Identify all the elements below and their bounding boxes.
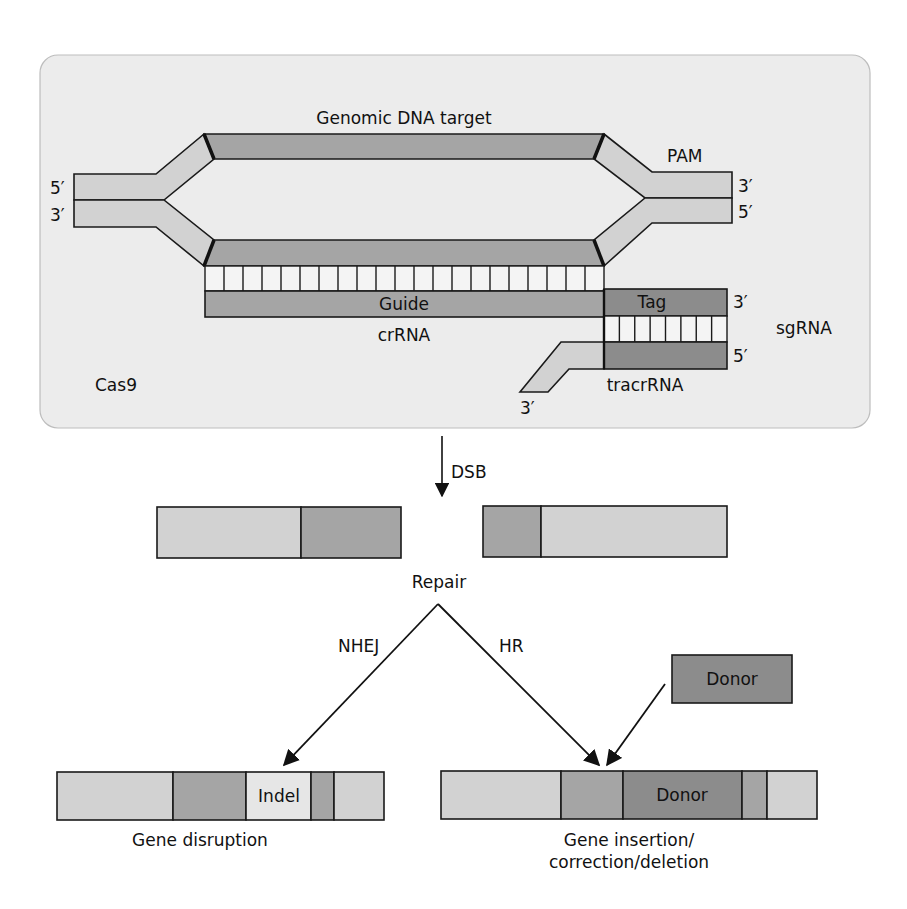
donor-template-label: Donor — [706, 669, 758, 689]
genomic-dna-target-label: Genomic DNA target — [316, 108, 492, 128]
nhej-label: NHEJ — [338, 636, 379, 656]
left-dna-fragment — [157, 507, 401, 558]
nhej-arrow — [284, 604, 438, 765]
right-top-3prime-end: 3′ — [738, 176, 753, 196]
tracrrna-label: tracrRNA — [607, 375, 684, 395]
gene-insertion-bar — [441, 771, 817, 819]
dsb-label: DSB — [451, 462, 487, 482]
left-top-5prime-end: 5′ — [50, 178, 65, 198]
tracr-5prime-end: 5′ — [733, 346, 748, 366]
genomic-target-top-strand — [204, 134, 604, 159]
tag-3prime-end: 3′ — [733, 292, 748, 312]
gene-disruption-caption: Gene disruption — [132, 830, 268, 850]
tracr-tail-3prime-end: 3′ — [520, 398, 535, 418]
tag-tracr-base-pairs — [604, 316, 727, 342]
hr-arrow — [438, 604, 599, 765]
tracrrna-bar — [604, 342, 727, 369]
crispr-cas9-diagram: Guide crRNA Tag 3′ 5′ tracrRNA 3′ sgRNA … — [0, 0, 907, 909]
guide-target-base-pairs — [205, 266, 604, 291]
right-dna-fragment — [483, 506, 727, 557]
crrna-label: crRNA — [378, 325, 431, 345]
repair-label: Repair — [412, 572, 466, 592]
tag-label: Tag — [637, 292, 667, 312]
indel-label: Indel — [258, 786, 300, 806]
guide-label: Guide — [379, 294, 429, 314]
donor-arrow — [607, 684, 665, 765]
pam-label: PAM — [667, 146, 702, 166]
gene-insertion-caption-line1: Gene insertion/ — [564, 830, 695, 850]
gene-disruption-bar — [57, 772, 384, 820]
sgrna-label: sgRNA — [776, 318, 832, 338]
right-bottom-5prime-end: 5′ — [738, 202, 753, 222]
left-bottom-3prime-end: 3′ — [50, 205, 65, 225]
cas9-label: Cas9 — [95, 375, 137, 395]
gene-insertion-caption-line2: correction/deletion — [549, 852, 709, 872]
hr-label: HR — [499, 636, 524, 656]
inserted-donor-label: Donor — [656, 785, 708, 805]
genomic-target-bottom-strand — [204, 240, 604, 266]
